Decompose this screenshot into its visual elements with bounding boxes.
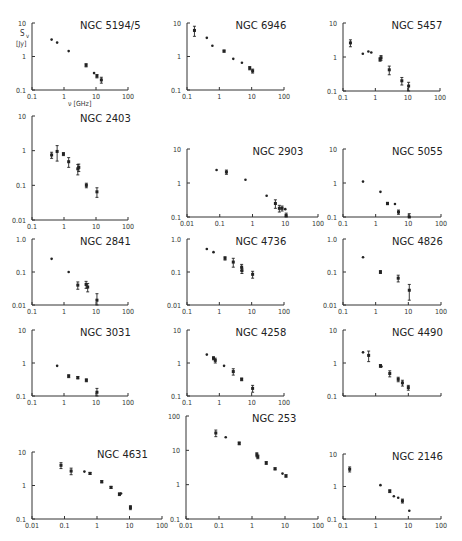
data-point: [206, 248, 209, 251]
data-point: [370, 51, 373, 54]
data-point: [248, 67, 251, 70]
panel-title: NGC 2903: [253, 146, 304, 157]
data-point: [379, 484, 382, 487]
data-point: [251, 273, 254, 276]
y-tick-label: 10: [329, 20, 337, 28]
ylabel-subscript: v: [26, 32, 30, 39]
data-point: [281, 207, 284, 210]
data-point: [59, 464, 62, 467]
y-tick-label: 0.1: [171, 269, 181, 277]
data-point: [265, 195, 268, 198]
data-point: [76, 376, 79, 379]
data-point: [401, 499, 404, 502]
data-point: [77, 166, 80, 169]
x-tick-label: 1: [62, 223, 66, 231]
data-point: [362, 52, 365, 55]
y-tick-label: 1: [177, 360, 181, 368]
panel-ngc-253: 0.11101000.010.1110100NGC 253: [168, 413, 324, 531]
x-tick-label: 10: [248, 308, 256, 316]
data-point: [224, 257, 227, 260]
x-tick-label: 0.1: [182, 399, 192, 407]
x-tick-label: 0.1: [215, 220, 225, 228]
data-point: [349, 41, 352, 44]
x-tick-label: 100: [278, 308, 290, 316]
y-tick-label: 10: [173, 146, 181, 154]
y-tick-label: 10: [329, 146, 337, 154]
panel-title: NGC 4826: [392, 236, 443, 247]
y-tick-label: 1.0: [16, 236, 26, 244]
data-point: [232, 58, 235, 61]
x-tick-label: 10: [404, 522, 412, 530]
x-tick-label: 0.1: [182, 93, 192, 101]
y-tick-label: 0.1: [171, 87, 181, 95]
x-tick-label: 1: [62, 308, 66, 316]
panel-title: NGC 4631: [97, 449, 148, 460]
data-point: [62, 153, 65, 156]
axes-frame: [32, 239, 128, 305]
x-tick-label: 1: [374, 308, 378, 316]
x-tick-label: 1: [62, 93, 66, 101]
data-point: [223, 50, 226, 53]
data-point: [367, 50, 370, 53]
data-point: [232, 370, 235, 373]
panel-ngc-2146: 0.11100.1110100NGC 2146: [327, 451, 447, 531]
data-point: [285, 214, 288, 217]
y-axis-label: S v [Jy]: [16, 29, 30, 48]
x-tick-label: 10: [404, 308, 412, 316]
ylabel-unit: [Jy]: [16, 40, 27, 48]
data-point: [241, 61, 244, 64]
y-tick-label: 1: [22, 147, 26, 155]
x-tick-label: 0.1: [182, 308, 192, 316]
data-point: [244, 178, 247, 181]
data-point: [95, 75, 98, 78]
data-point: [93, 72, 96, 75]
y-tick-label: 1: [333, 483, 337, 491]
panel-ngc-4826: 0.010.11.00.1110100NGC 4826: [323, 236, 447, 317]
x-tick-label: 10: [92, 93, 100, 101]
y-tick-label: 1: [333, 180, 337, 188]
y-tick-label: 1: [333, 360, 337, 368]
data-point: [388, 490, 391, 493]
data-point: [56, 150, 59, 153]
data-point: [400, 79, 403, 82]
y-tick-label: 10: [329, 327, 337, 335]
y-tick-label: 10: [329, 451, 337, 459]
data-point: [379, 191, 382, 194]
x-tick-label: 100: [156, 522, 168, 530]
y-tick-label: 0.01: [167, 302, 181, 310]
panel-title: NGC 253: [252, 413, 296, 424]
data-point: [408, 289, 411, 292]
panel-title: NGC 2841: [80, 236, 131, 247]
data-point: [380, 56, 383, 59]
data-point: [76, 284, 79, 287]
data-point: [362, 180, 365, 183]
y-tick-label: 10: [18, 20, 26, 28]
x-tick-label: 0.01: [25, 522, 39, 530]
data-point: [95, 190, 98, 193]
x-tick-label: 0.1: [338, 308, 348, 316]
x-tick-label: 100: [312, 522, 324, 530]
panel-title: NGC 5457: [392, 20, 443, 31]
data-point: [408, 216, 411, 219]
data-point: [240, 378, 243, 381]
panel-title: NGC 4736: [236, 236, 287, 247]
x-tick-label: 1: [95, 522, 99, 530]
panel-ngc-2841: 0.010.11.00.1110100NGC 2841: [12, 236, 134, 317]
axes-frame: [32, 23, 128, 90]
panel-title: NGC 3031: [80, 327, 131, 338]
axes-frame: [32, 452, 162, 519]
y-tick-label: 1.0: [327, 236, 337, 244]
x-tick-label: 100: [435, 522, 447, 530]
data-point: [89, 472, 92, 475]
y-tick-label: 0.1: [171, 393, 181, 401]
panel-title: NGC 4490: [392, 327, 443, 338]
y-tick-label: 1: [177, 180, 181, 188]
data-point: [388, 68, 391, 71]
data-point: [50, 38, 53, 41]
x-tick-label: 100: [122, 399, 134, 407]
axes-frame: [343, 239, 441, 305]
data-point: [212, 251, 215, 254]
data-point: [397, 378, 400, 381]
panel-ngc-4736: 0.010.11.00.1110100NGC 4736: [167, 236, 290, 317]
data-point: [397, 277, 400, 280]
